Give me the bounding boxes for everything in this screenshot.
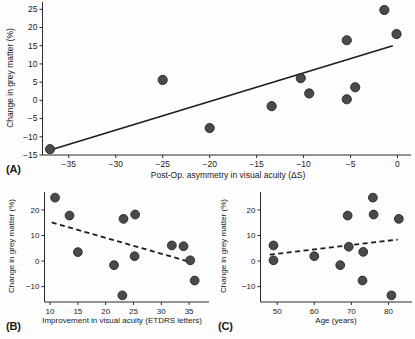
regression-line [46, 46, 393, 152]
y-tick-label: 20 [28, 22, 38, 32]
x-tick-label: −30 [109, 159, 124, 169]
data-point [394, 214, 403, 223]
data-point [296, 74, 305, 83]
data-point [73, 248, 82, 257]
data-point [186, 256, 195, 265]
data-point [110, 261, 119, 270]
data-point [131, 210, 140, 219]
data-point [351, 83, 360, 92]
data-point [310, 252, 319, 261]
panel-b-x-axis-label: Improvement in visual acuity (ETDRS lett… [42, 316, 202, 325]
panel-c-svg: −1001020 50607080 Change in grey matter … [212, 186, 415, 326]
y-tick-label: 10 [28, 59, 38, 69]
panel-a-regression-line [46, 46, 393, 152]
panel-c-y-axis-label: Change in grey matter (%) [219, 199, 228, 293]
data-point [342, 95, 351, 104]
y-tick-label: −10 [23, 132, 38, 142]
panel-a-x-ticks: −35−30−25−20−15−10−50 [62, 155, 401, 169]
y-tick-label: −15 [23, 150, 38, 160]
panel-a-svg: −15−10−50510152025 −35−30−25−20−15−10−50… [0, 0, 415, 180]
panel-a-y-axis-label: Change in grey matter (%) [5, 28, 15, 128]
y-tick-label: 20 [247, 206, 256, 215]
x-tick-label: 35 [185, 307, 194, 316]
data-point [179, 242, 188, 251]
x-tick-label: −35 [62, 159, 77, 169]
data-point [267, 102, 276, 111]
y-tick-label: 0 [35, 257, 40, 266]
y-tick-label: 10 [31, 231, 40, 240]
data-point [130, 252, 139, 261]
data-point [45, 145, 54, 154]
figure-container: −15−10−50510152025 −35−30−25−20−15−10−50… [0, 0, 415, 339]
data-point [342, 36, 351, 45]
x-tick-label: 50 [273, 307, 282, 316]
x-tick-label: 20 [101, 307, 110, 316]
data-point [392, 29, 401, 38]
panel-b-y-axis-label: Change in grey matter (%) [7, 199, 16, 293]
y-tick-label: 0 [33, 95, 38, 105]
y-tick-label: 20 [31, 206, 40, 215]
x-tick-label: −5 [346, 159, 356, 169]
panel-a-label: (A) [6, 163, 21, 175]
panel-c-x-axis-label: Age (years) [315, 316, 357, 325]
data-point [190, 276, 199, 285]
x-tick-label: 25 [129, 307, 138, 316]
panel-c-scatter: −1001020 50607080 Change in grey matter … [212, 186, 415, 326]
panel-a-axes [43, 2, 412, 155]
panel-a-scatter: −15−10−50510152025 −35−30−25−20−15−10−50… [0, 0, 415, 180]
x-tick-label: 70 [347, 307, 356, 316]
data-point [387, 291, 396, 300]
x-tick-label: −15 [249, 159, 264, 169]
x-tick-label: −10 [296, 159, 311, 169]
panel-c-regression-line [270, 240, 398, 255]
data-point [269, 241, 278, 250]
panel-a-y-ticks: −15−10−50510152025 [23, 4, 42, 160]
panel-c-data-points [269, 193, 403, 300]
y-tick-label: 25 [28, 4, 38, 14]
y-tick-label: 0 [251, 257, 256, 266]
x-tick-label: 15 [73, 307, 82, 316]
panel-c-label: (C) [218, 320, 233, 332]
x-tick-label: 10 [46, 307, 55, 316]
data-point [119, 214, 128, 223]
panel-a-data-points [45, 5, 401, 153]
data-point [369, 210, 378, 219]
data-point [380, 5, 389, 14]
data-point [343, 211, 352, 220]
data-point [305, 89, 314, 98]
data-point [336, 261, 345, 270]
panel-b-x-ticks: 101520253035 [46, 302, 194, 316]
data-point [158, 75, 167, 84]
data-point [118, 291, 127, 300]
data-point [51, 193, 60, 202]
panel-c-axes [261, 192, 413, 302]
panel-c-x-ticks: 50607080 [273, 302, 394, 316]
y-tick-label: −10 [242, 282, 256, 291]
data-point [65, 211, 74, 220]
x-tick-label: 80 [384, 307, 393, 316]
data-point [167, 241, 176, 250]
regression-line [270, 240, 398, 255]
panel-b-y-ticks: −1001020 [26, 206, 45, 292]
panel-b-label: (B) [6, 320, 21, 332]
data-point [344, 242, 353, 251]
x-tick-label: −25 [155, 159, 170, 169]
x-tick-label: 60 [310, 307, 319, 316]
data-point [359, 247, 368, 256]
panel-b-scatter: −1001020 101520253035 Change in grey mat… [0, 186, 212, 326]
y-tick-label: 15 [28, 41, 38, 51]
y-tick-label: −5 [28, 113, 38, 123]
data-point [358, 276, 367, 285]
x-tick-label: 30 [157, 307, 166, 316]
y-tick-label: 5 [33, 77, 38, 87]
panel-b-svg: −1001020 101520253035 Change in grey mat… [0, 186, 212, 326]
y-tick-label: −10 [26, 282, 40, 291]
x-tick-label: −20 [202, 159, 217, 169]
panel-b-data-points [51, 193, 199, 300]
data-point [368, 193, 377, 202]
panel-c-y-ticks: −1001020 [242, 206, 261, 292]
y-tick-label: 10 [247, 231, 256, 240]
x-tick-label: 0 [395, 159, 400, 169]
data-point [269, 256, 278, 265]
data-point [205, 123, 214, 132]
